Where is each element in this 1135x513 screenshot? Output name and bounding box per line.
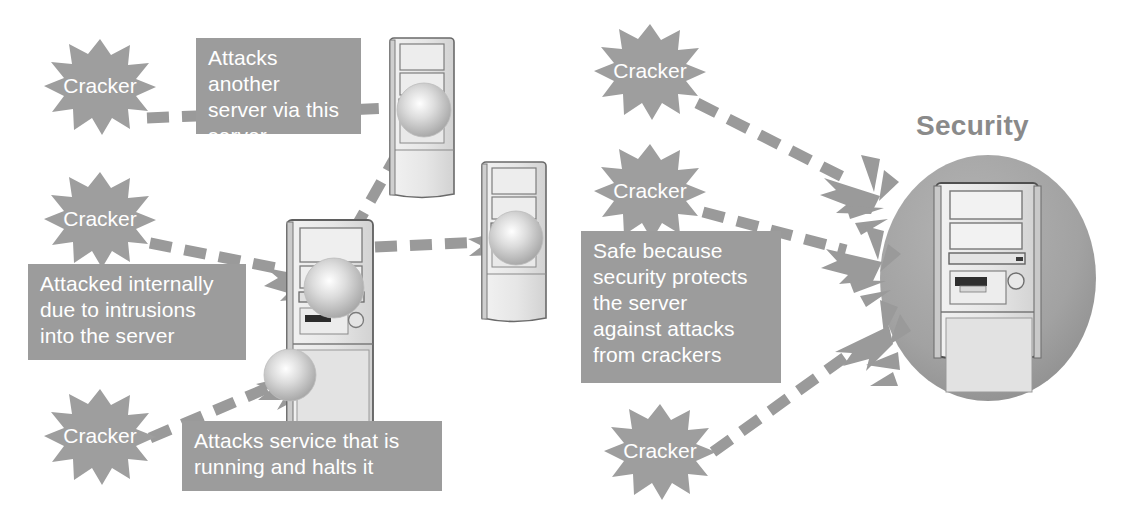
callout-attacks-another-server: Attacks another server via this server xyxy=(196,38,361,134)
cracker-burst-6-label: Cracker xyxy=(623,439,697,462)
diagram-artwork: Cracker Cracker Cracker xyxy=(0,0,1135,513)
cracker-burst-6: Cracker xyxy=(604,404,716,500)
cracker-burst-1: Cracker xyxy=(44,39,156,135)
cracker-burst-1-label: Cracker xyxy=(63,74,137,97)
server-center xyxy=(264,220,373,430)
callout-attacked-internally: Attacked internally due to intrusions in… xyxy=(28,264,246,360)
callout-safe-because: Safe because security protects the serve… xyxy=(581,231,781,383)
server-top-right xyxy=(390,38,454,198)
cracker-burst-4-label: Cracker xyxy=(613,59,687,82)
security-label: Security xyxy=(916,110,1029,142)
callout-attacks-service: Attacks service that is running and halt… xyxy=(182,421,442,491)
diagram-canvas: Cracker Cracker Cracker xyxy=(0,0,1135,513)
cracker-burst-4: Cracker xyxy=(594,24,706,120)
cracker-burst-2-label: Cracker xyxy=(63,207,137,230)
cracker-burst-3-label: Cracker xyxy=(63,424,137,447)
cracker-burst-2: Cracker xyxy=(44,172,156,268)
cracker-burst-5: Cracker xyxy=(594,144,706,240)
server-right xyxy=(482,162,546,322)
cracker-burst-3: Cracker xyxy=(44,389,156,485)
cracker-burst-5-label: Cracker xyxy=(613,179,687,202)
server-protected xyxy=(934,183,1041,392)
